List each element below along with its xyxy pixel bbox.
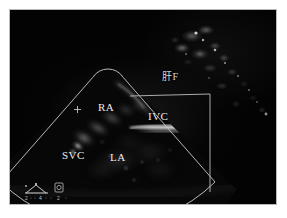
label-top-marker: 肝F (162, 72, 179, 82)
sector-crop-top (130, 94, 210, 96)
label-right-atrium: RA (98, 102, 114, 113)
label-inferior-vena-cava: IVC (148, 111, 168, 122)
ultrasound-scan-area: 肝F RA IVC SVC LA 2 4 (10, 10, 276, 204)
instrument-panel: 2 4 2 (22, 180, 78, 202)
mode-box-icon (55, 183, 63, 192)
depth-ruler-dots (31, 198, 67, 199)
sector-graphic (10, 10, 276, 204)
depth-tick-right: 2 (57, 195, 60, 201)
right-field-speckle (170, 25, 266, 113)
label-left-atrium: LA (110, 152, 126, 163)
screenshot-root: 肝F RA IVC SVC LA 2 4 (0, 0, 287, 218)
caliper-tick-icon (74, 106, 81, 113)
right-field-bright-specks (185, 31, 267, 115)
depth-tick-left: 2 (25, 195, 28, 201)
tgc-curve-icon (25, 183, 48, 193)
label-superior-vena-cava: SVC (62, 150, 85, 161)
depth-tick-mid: 4 (39, 195, 42, 201)
ivc-lumen-streak (128, 125, 218, 132)
